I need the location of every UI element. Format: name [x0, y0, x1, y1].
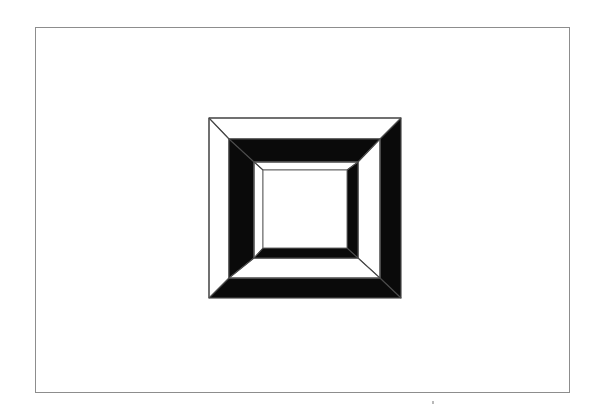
nested-square-frames-figure: [206, 113, 404, 299]
middle-frame-top-band: [229, 139, 380, 162]
illusion-figure-page: Three concentric beveled square frames d…: [0, 0, 602, 414]
outer-frame-right-band: [380, 118, 401, 298]
scan-speck: [432, 401, 434, 404]
nested-square-frames-svg: [206, 113, 404, 299]
center-panel: [263, 170, 347, 248]
outer-frame-left-band: [209, 118, 229, 298]
inner-frame-top-band: [254, 162, 358, 170]
middle-frame-left-band: [229, 139, 254, 278]
inner-frame-bottom-band: [254, 248, 358, 258]
figure-description: Three concentric beveled square frames d…: [0, 0, 1, 1]
inner-frame-left-band: [254, 162, 263, 258]
inner-frame-right-band: [347, 162, 358, 258]
outer-frame-top-band: [209, 118, 401, 139]
outer-frame-bottom-band: [209, 278, 401, 298]
plate-border: [35, 27, 570, 393]
middle-frame-bottom-band: [229, 258, 380, 278]
middle-frame-right-band: [358, 139, 380, 278]
